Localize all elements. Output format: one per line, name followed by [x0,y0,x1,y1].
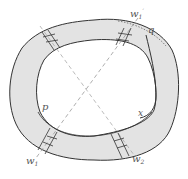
annulus-diagram: w1′ q p x w1 w2 [0,0,188,179]
label-p: p [42,101,49,112]
label-q: q [148,24,154,35]
label-x: x [138,108,143,118]
label-w2: w2 [132,153,145,165]
label-w1prime: w1′ [130,7,144,20]
inner-boundary [37,40,156,137]
